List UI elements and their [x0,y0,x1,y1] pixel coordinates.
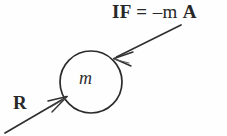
mass-label: m [79,69,92,87]
inertial-force-label: IF = –m A [112,2,197,21]
reaction-label: R [13,93,27,112]
inertial-force-arrow [114,25,181,66]
physics-diagram: IF = –m A R m [0,0,227,136]
inertial-force-arrow-shaft [117,25,182,57]
inertial-force-label-minus-m: –m [153,1,183,22]
inertial-force-label-prefix: IF = [112,1,153,22]
inertial-force-label-accel: A [183,1,197,22]
